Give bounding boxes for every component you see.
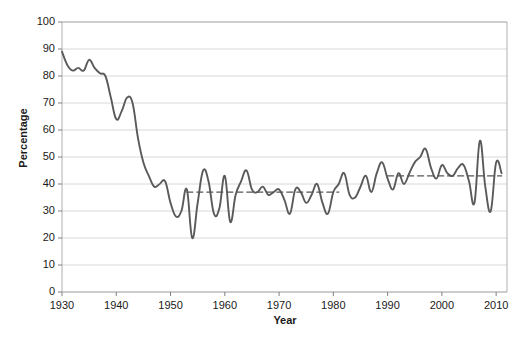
chart-figure: Percentage Year 0102030405060708090100 1… bbox=[0, 0, 528, 337]
plot-area bbox=[0, 0, 528, 337]
series-line bbox=[62, 52, 502, 239]
